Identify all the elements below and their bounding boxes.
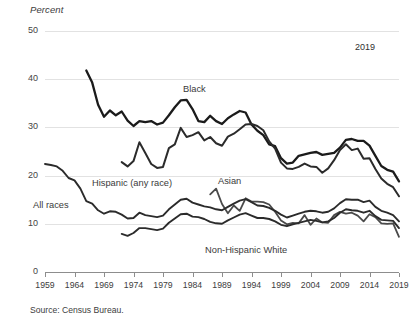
series-label-all-races: All races bbox=[33, 200, 69, 210]
series-label-asian: Asian bbox=[218, 176, 241, 186]
series-label-non-hispanic-white: Non-Hispanic White bbox=[205, 245, 287, 255]
series-label-hispanic: Hispanic (any race) bbox=[92, 178, 172, 188]
series-label-black: Black bbox=[183, 84, 206, 94]
series-line-non-hispanic-white bbox=[122, 209, 399, 236]
source-note: Source: Census Bureau. bbox=[30, 305, 124, 315]
